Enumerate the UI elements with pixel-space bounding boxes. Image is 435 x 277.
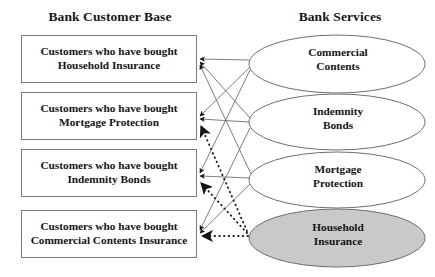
customer-box-label: Customers who have bought Commercial Con… [29, 220, 190, 248]
heading-bank-services: Bank Services [250, 9, 430, 25]
heading-bank-customer-base: Bank Customer Base [10, 9, 210, 25]
edge-mortgage-protection-to-indemnity-bonds [200, 176, 250, 178]
customer-box-label: Customers who have bought Indemnity Bond… [38, 159, 179, 187]
customer-box-label: Customers who have bought Household Insu… [38, 45, 179, 73]
customer-box-household-insurance[interactable]: Customers who have bought Household Insu… [21, 35, 197, 83]
edge-commercial-contents-to-household-insurance [200, 59, 249, 60]
customer-box-label: Customers who have bought Mortgage Prote… [38, 102, 179, 130]
customer-box-mortgage-protection[interactable]: Customers who have bought Mortgage Prote… [21, 92, 197, 140]
edge-commercial-contents-to-mortgage-protection [200, 67, 250, 116]
edge-household-insurance-to-mortgage-protection [201, 126, 247, 231]
edge-indemnity-bonds-to-household-insurance [200, 62, 250, 118]
diagram-root: Bank Customer Base Bank Services Custome… [0, 0, 435, 277]
customer-box-indemnity-bonds[interactable]: Customers who have bought Indemnity Bond… [21, 149, 197, 197]
customer-box-commercial-contents-insurance[interactable]: Customers who have bought Commercial Con… [21, 210, 197, 258]
